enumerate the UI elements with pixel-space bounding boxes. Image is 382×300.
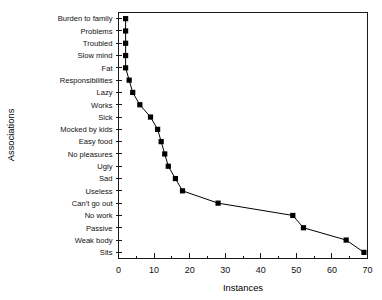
data-series xyxy=(123,16,367,255)
x-axis-title: Instances xyxy=(223,282,263,293)
data-point-marker xyxy=(216,201,221,206)
y-tick-label: Ugly xyxy=(97,162,112,171)
data-point-marker xyxy=(180,188,185,193)
y-tick-label: Sits xyxy=(100,248,113,257)
data-point-marker xyxy=(301,225,306,230)
y-tick-label: Problems xyxy=(80,27,112,36)
x-tick-label: 20 xyxy=(185,265,195,275)
data-point-marker xyxy=(130,90,135,95)
y-tick-label: Can't go out xyxy=(72,199,114,208)
associations-instances-line-chart: Burden to familyProblemsTroubledSlow min… xyxy=(0,0,382,300)
data-point-marker xyxy=(290,213,295,218)
y-tick-label: Lazy xyxy=(96,88,112,97)
chart-container: Burden to familyProblemsTroubledSlow min… xyxy=(0,0,382,300)
data-point-marker xyxy=(123,53,128,58)
data-point-marker xyxy=(123,41,128,46)
data-point-marker xyxy=(137,102,142,107)
x-tick-label: 10 xyxy=(149,265,159,275)
y-tick-label: No work xyxy=(85,211,113,220)
x-tick-label: 40 xyxy=(256,265,266,275)
y-axis-tick-labels: Burden to familyProblemsTroubledSlow min… xyxy=(58,14,114,257)
data-point-marker xyxy=(123,16,128,21)
y-tick-label: Burden to family xyxy=(58,14,113,23)
x-tick-label: 60 xyxy=(327,265,337,275)
y-tick-label: Works xyxy=(91,101,113,110)
data-point-marker xyxy=(162,151,167,156)
plot-frame xyxy=(119,13,368,259)
series-line xyxy=(126,19,364,253)
data-point-marker xyxy=(123,28,128,33)
y-tick-label: Useless xyxy=(85,187,112,196)
y-tick-label: Troubled xyxy=(83,39,113,48)
y-tick-label: Mocked by kids xyxy=(60,125,113,134)
data-point-marker xyxy=(123,65,128,70)
data-point-marker xyxy=(166,164,171,169)
y-tick-label: Sick xyxy=(98,113,113,122)
y-tick-label: Easy food xyxy=(79,137,113,146)
data-point-marker xyxy=(361,250,366,255)
data-point-marker xyxy=(344,237,349,242)
x-tick-label: 70 xyxy=(362,265,372,275)
x-axis-tick-labels: 010203040506070 xyxy=(116,265,373,275)
y-tick-label: Weak body xyxy=(75,236,113,245)
data-point-marker xyxy=(155,127,160,132)
data-point-marker xyxy=(159,139,164,144)
y-tick-label: Responsibilities xyxy=(60,76,113,85)
x-tick-label: 30 xyxy=(220,265,230,275)
x-tick-label: 0 xyxy=(116,265,121,275)
y-axis-title: Associations xyxy=(5,108,16,161)
y-tick-label: Passive xyxy=(86,224,113,233)
y-tick-label: Sad xyxy=(99,174,113,183)
data-point-marker xyxy=(148,114,153,119)
data-point-marker xyxy=(127,78,132,83)
x-tick-label: 50 xyxy=(291,265,301,275)
y-tick-label: No pleasures xyxy=(68,150,113,159)
data-point-marker xyxy=(173,176,178,181)
y-tick-label: Slow mind xyxy=(77,51,112,60)
y-tick-label: Fat xyxy=(102,64,114,73)
